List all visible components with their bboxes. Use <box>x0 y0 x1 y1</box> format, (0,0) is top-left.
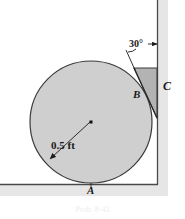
label-point-a: A <box>87 185 94 196</box>
label-point-b: B <box>133 89 140 100</box>
figure-caption: Prob. 8-43 <box>0 206 185 214</box>
figure-container: A B C 30° 0.5 ft Prob. 8-43 <box>0 0 185 219</box>
angle-extension-line <box>126 50 135 70</box>
ground-support-band <box>0 185 158 196</box>
label-point-c: C <box>163 80 171 92</box>
angle-arc <box>128 49 136 52</box>
label-radius-dimension: 0.5 ft <box>51 140 75 151</box>
wall-support-band <box>158 0 168 196</box>
label-angle-30: 30° <box>129 39 143 49</box>
